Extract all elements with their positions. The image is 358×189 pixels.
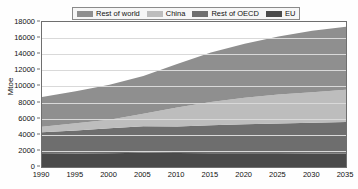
legend-swatch-eu	[266, 11, 282, 17]
x-axis-tick-labels: 1990199520002005201020152020202520302035	[0, 168, 358, 182]
x-tick-label-2015: 2015	[202, 170, 219, 179]
legend-label-china: China	[166, 9, 186, 18]
y-tick-mark-16000	[37, 37, 40, 38]
y-tick-mark-12000	[37, 69, 40, 70]
legend-item-rest-of-world[interactable]: Rest of world	[77, 9, 140, 18]
plot-area	[41, 21, 347, 168]
legend-item-china[interactable]: China	[147, 9, 186, 18]
x-tick-label-2030: 2030	[303, 170, 320, 179]
y-tick-label-8000: 8000	[18, 97, 35, 106]
legend-label-rest-of-world: Rest of world	[96, 9, 140, 18]
legend-swatch-rest-of-world	[77, 11, 93, 17]
y-tick-mark-4000	[37, 133, 40, 134]
x-tick-label-2025: 2025	[269, 170, 286, 179]
y-tick-label-16000: 16000	[14, 33, 35, 42]
y-axis-tick-labels: 0200040006000800010000120001400016000180…	[0, 0, 41, 189]
x-tick-label-2020: 2020	[235, 170, 252, 179]
x-tick-label-2010: 2010	[168, 170, 185, 179]
legend-swatch-china	[147, 11, 163, 17]
area-series-eu	[42, 153, 346, 167]
y-tick-mark-18000	[37, 21, 40, 22]
stacked-area-chart: Rest of world China Rest of OECD EU Mtoe…	[0, 0, 358, 189]
legend-swatch-rest-of-oecd	[192, 11, 208, 17]
legend-label-eu: EU	[285, 9, 295, 18]
y-tick-label-18000: 18000	[14, 17, 35, 26]
y-tick-mark-2000	[37, 149, 40, 150]
y-tick-mark-0	[37, 166, 40, 167]
y-tick-mark-6000	[37, 117, 40, 118]
chart-legend: Rest of world China Rest of OECD EU	[72, 7, 300, 20]
y-tick-label-10000: 10000	[14, 81, 35, 90]
legend-label-rest-of-oecd: Rest of OECD	[211, 9, 259, 18]
y-tick-label-4000: 4000	[18, 129, 35, 138]
x-tick-label-1995: 1995	[66, 170, 83, 179]
legend-item-eu[interactable]: EU	[266, 9, 295, 18]
x-tick-label-2035: 2035	[337, 170, 354, 179]
x-tick-label-1990: 1990	[33, 170, 50, 179]
y-tick-label-6000: 6000	[18, 113, 35, 122]
y-tick-mark-8000	[37, 101, 40, 102]
x-tick-label-2000: 2000	[100, 170, 117, 179]
y-tick-label-2000: 2000	[18, 145, 35, 154]
y-tick-mark-10000	[37, 85, 40, 86]
x-tick-label-2005: 2005	[134, 170, 151, 179]
legend-item-rest-of-oecd[interactable]: Rest of OECD	[192, 9, 259, 18]
area-series-svg	[42, 22, 346, 167]
y-tick-label-14000: 14000	[14, 49, 35, 58]
y-tick-mark-14000	[37, 53, 40, 54]
y-tick-label-12000: 12000	[14, 65, 35, 74]
